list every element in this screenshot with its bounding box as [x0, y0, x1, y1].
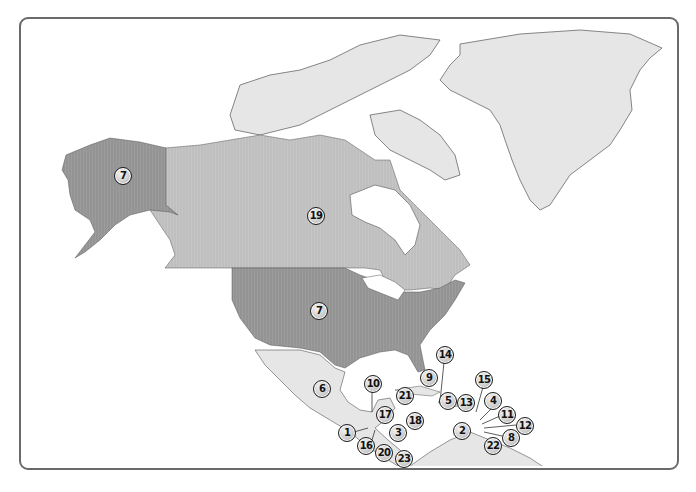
region-marker-m18[interactable]: 18	[406, 412, 424, 430]
region-marker-m14[interactable]: 14	[436, 346, 454, 364]
region-marker-m2[interactable]: 2	[453, 422, 471, 440]
alaska	[62, 138, 178, 258]
region-marker-m22[interactable]: 22	[484, 437, 502, 455]
region-marker-m23[interactable]: 23	[395, 450, 413, 468]
region-marker-m8[interactable]: 8	[502, 429, 520, 447]
region-marker-m20[interactable]: 20	[375, 444, 393, 462]
region-marker-m9[interactable]: 9	[420, 369, 438, 387]
region-marker-mexico[interactable]: 6	[313, 380, 331, 398]
region-marker-m15[interactable]: 15	[475, 371, 493, 389]
region-marker-m17[interactable]: 17	[376, 406, 394, 424]
greenland	[440, 30, 662, 210]
region-marker-m3[interactable]: 3	[389, 424, 407, 442]
south-america	[410, 432, 545, 470]
region-marker-m5[interactable]: 5	[439, 392, 457, 410]
region-marker-m11[interactable]: 11	[498, 406, 516, 424]
region-marker-m21[interactable]: 21	[396, 387, 414, 405]
region-marker-usa[interactable]: 7	[310, 302, 328, 320]
map-canvas	[0, 0, 696, 492]
region-marker-m4[interactable]: 4	[484, 392, 502, 410]
region-marker-m12[interactable]: 12	[516, 417, 534, 435]
region-marker-m1[interactable]: 1	[338, 424, 356, 442]
region-marker-m16[interactable]: 16	[357, 437, 375, 455]
region-marker-canada[interactable]: 19	[307, 207, 325, 225]
region-marker-m13[interactable]: 13	[457, 394, 475, 412]
region-marker-alaska[interactable]: 7	[114, 167, 132, 185]
region-marker-m10[interactable]: 10	[364, 375, 382, 393]
